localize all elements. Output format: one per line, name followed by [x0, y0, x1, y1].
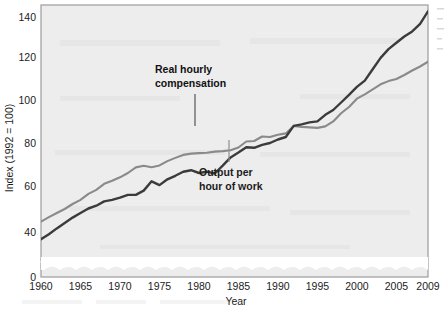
y-tick-label-140: 140: [18, 11, 36, 23]
x-tick-label-1970: 1970: [108, 280, 132, 292]
x-tick-label-1980: 1980: [187, 280, 211, 292]
y-tick-label-60: 60: [24, 180, 36, 192]
x-tick-label-2005: 2005: [385, 280, 409, 292]
x-tick-label-1965: 1965: [69, 280, 93, 292]
y-tick-label-40: 40: [24, 226, 36, 238]
annotation-output-per-hour-of-work-line1: Output per: [199, 166, 253, 178]
chart-figure: 140 120 100 80 60 40 0 Index (1992 = 100…: [0, 0, 447, 314]
bottom-margin-artifact: [22, 300, 230, 304]
x-tick-label-1960: 1960: [29, 280, 53, 292]
x-tick-label-1995: 1995: [306, 280, 330, 292]
y-tick-label-100: 100: [18, 94, 36, 106]
y-tick-label-80: 80: [24, 137, 36, 149]
x-tick-label-1985: 1985: [227, 280, 251, 292]
right-edge-text-fragment: [437, 8, 444, 50]
x-axis-ticks: 1960 1965 1970 1975 1980 1985 1990 1995 …: [29, 280, 440, 292]
annotation-output-per-hour-of-work-line2: hour of work: [199, 180, 263, 192]
chart-svg: 140 120 100 80 60 40 0 Index (1992 = 100…: [0, 0, 447, 314]
y-tick-label-120: 120: [18, 51, 36, 63]
x-tick-label-2009: 2009: [416, 280, 440, 292]
annotation-real-hourly-compensation-line2: compensation: [155, 77, 226, 89]
y-axis-title: Index (1992 = 100): [3, 104, 15, 192]
y-axis-ticks: 140 120 100 80 60 40 0: [18, 11, 36, 283]
x-tick-label-1975: 1975: [148, 280, 172, 292]
annotation-real-hourly-compensation-line1: Real hourly: [155, 63, 212, 75]
x-tick-label-1990: 1990: [266, 280, 290, 292]
x-tick-label-2000: 2000: [345, 280, 369, 292]
